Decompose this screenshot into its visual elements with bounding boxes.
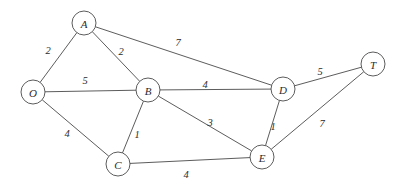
edge-weight-o-c: 4 <box>64 128 70 139</box>
node-label-b: B <box>145 85 152 97</box>
graph-node-a: A <box>72 11 96 35</box>
graph-node-c: C <box>106 152 130 176</box>
edge-weight-c-e: 4 <box>183 169 189 180</box>
edge-weight-d-e: 1 <box>270 121 275 132</box>
edge-weight-o-b: 5 <box>82 75 87 86</box>
node-label-c: C <box>114 159 122 171</box>
edge-weight-a-d: 7 <box>175 37 181 48</box>
graph-canvas: OABCDET 227545413417 <box>0 0 408 191</box>
graph-edge-o-b <box>45 90 136 92</box>
nodes-layer: OABCDET <box>21 11 385 176</box>
graph-edge-o-c <box>42 100 109 156</box>
graph-edge-o-a <box>40 33 77 83</box>
edge-weight-d-t: 5 <box>317 66 322 77</box>
graph-edge-c-e <box>130 158 250 164</box>
node-label-a: A <box>80 18 88 30</box>
edge-weight-b-c: 1 <box>134 129 139 140</box>
edge-weights-layer: 227545413417 <box>45 37 325 180</box>
node-label-d: D <box>278 84 287 96</box>
node-label-o: O <box>29 87 37 99</box>
graph-edge-b-e <box>158 96 251 151</box>
graph-edge-d-t <box>295 67 362 86</box>
graph-node-b: B <box>136 78 160 102</box>
edge-weight-a-b: 2 <box>118 46 124 57</box>
edge-weight-b-d: 4 <box>202 79 208 90</box>
edges-layer <box>40 27 364 164</box>
graph-diagram: OABCDET 227545413417 <box>0 0 408 191</box>
graph-edge-b-c <box>123 101 144 153</box>
edge-weight-e-t: 7 <box>319 118 325 129</box>
edge-weight-b-e: 3 <box>206 117 212 128</box>
graph-node-e: E <box>250 145 274 169</box>
graph-node-t: T <box>361 52 385 76</box>
node-label-e: E <box>258 152 266 164</box>
graph-node-d: D <box>271 77 295 101</box>
graph-node-o: O <box>21 80 45 104</box>
edge-weight-o-a: 2 <box>45 45 51 56</box>
node-label-t: T <box>370 59 377 71</box>
graph-edge-b-d <box>160 89 271 90</box>
